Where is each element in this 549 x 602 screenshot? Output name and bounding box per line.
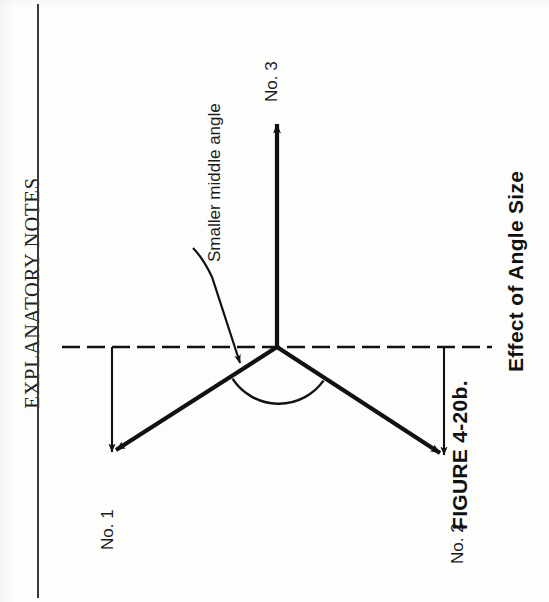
figure-number: FIGURE 4-20b. xyxy=(448,370,472,530)
scanned-page: EXPLANATORY NOTES xyxy=(0,0,549,602)
ray-label-no1: No. 1 xyxy=(98,474,118,550)
middle-angle-arc xyxy=(233,379,324,404)
figure-title: Effect of Angle Size xyxy=(504,152,528,372)
annotation-label-smaller-middle-angle: Smaller middle angle xyxy=(205,62,225,262)
ray-label-no3: No. 3 xyxy=(262,26,282,102)
